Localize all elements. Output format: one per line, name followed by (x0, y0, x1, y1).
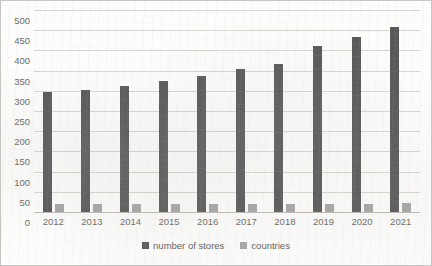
x-axis-tick-label: 2014 (120, 216, 141, 227)
y-axis-tick-label: 0 (2, 217, 30, 228)
bar-stores (274, 64, 283, 212)
bar-countries (93, 204, 102, 212)
bar-stores (197, 76, 206, 212)
bar-group (150, 10, 189, 212)
legend-item: countries (240, 240, 290, 251)
y-axis-tick-label: 150 (2, 156, 30, 167)
y-axis-tick-label: 100 (2, 176, 30, 187)
bar-group (73, 10, 112, 212)
x-axis-tick-label: 2015 (159, 216, 180, 227)
bar-group (304, 10, 343, 212)
x-axis: 2012201320142015201620172018201920202021 (34, 214, 420, 232)
bar-stores (236, 69, 245, 212)
bar-stores (159, 81, 168, 212)
x-axis-tick-label: 2013 (81, 216, 102, 227)
bar-group (111, 10, 150, 212)
y-axis-tick-label: 300 (2, 95, 30, 106)
legend-label: number of stores (153, 240, 224, 251)
plot-area (34, 10, 420, 212)
y-axis-tick-label: 200 (2, 136, 30, 147)
bar-stores (43, 92, 52, 212)
chart-legend: number of storescountries (0, 240, 432, 251)
bar-countries (286, 204, 295, 212)
bar-stores (81, 90, 90, 212)
x-axis-tick-label: 2021 (390, 216, 411, 227)
legend-label: countries (251, 240, 290, 251)
x-axis-tick-label: 2020 (352, 216, 373, 227)
bar-group (188, 10, 227, 212)
bar-stores (120, 86, 129, 212)
legend-swatch-icon (142, 242, 149, 249)
bar-stores (390, 27, 399, 212)
y-axis-tick-label: 500 (2, 15, 30, 26)
legend-swatch-icon (240, 242, 247, 249)
bar-stores (313, 46, 322, 212)
bar-countries (55, 204, 64, 212)
bar-countries (171, 204, 180, 212)
x-axis-tick-label: 2012 (43, 216, 64, 227)
x-axis-tick-label: 2016 (197, 216, 218, 227)
bar-countries (132, 204, 141, 212)
x-axis-tick-label: 2018 (274, 216, 295, 227)
x-axis-tick-label: 2019 (313, 216, 334, 227)
bar-stores (352, 37, 361, 212)
bar-group (227, 10, 266, 212)
bar-countries (248, 204, 257, 212)
bar-group (381, 10, 420, 212)
bar-countries (364, 204, 373, 212)
y-axis-tick-label: 50 (2, 196, 30, 207)
bar-countries (209, 204, 218, 212)
x-axis-tick-label: 2017 (236, 216, 257, 227)
bar-countries (325, 204, 334, 212)
legend-item: number of stores (142, 240, 224, 251)
bar-group (34, 10, 73, 212)
bar-countries (402, 203, 411, 212)
bar-group (343, 10, 382, 212)
y-axis-tick-label: 250 (2, 116, 30, 127)
bar-group (266, 10, 305, 212)
y-axis-tick-label: 350 (2, 75, 30, 86)
bars-and-gridlines (34, 10, 420, 212)
y-axis-tick-label: 450 (2, 35, 30, 46)
axis-baseline (34, 212, 420, 213)
y-axis-tick-label: 400 (2, 55, 30, 66)
